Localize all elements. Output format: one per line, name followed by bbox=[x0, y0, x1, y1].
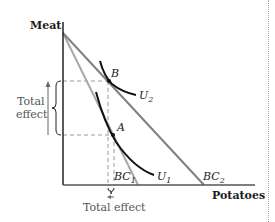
point-a-label: A bbox=[116, 121, 125, 134]
arrowhead-left-icon bbox=[107, 195, 111, 199]
svg-text:Total effect: Total effect bbox=[83, 201, 146, 214]
svg-text:Total: Total bbox=[17, 95, 45, 108]
y-axis-label: Meat bbox=[30, 19, 62, 32]
svg-text:U2: U2 bbox=[139, 89, 153, 104]
point-b-label: B bbox=[110, 67, 119, 80]
brace-left-icon bbox=[52, 81, 61, 135]
x-axis-label: Potatoes bbox=[212, 189, 265, 202]
svg-text:U1: U1 bbox=[157, 170, 171, 185]
arrowhead-up-icon bbox=[46, 81, 51, 87]
guide-lines bbox=[63, 81, 114, 185]
label-bc2: BC2 bbox=[202, 170, 225, 185]
brace-down-icon bbox=[108, 188, 114, 194]
indifference-curve-u1 bbox=[96, 92, 154, 175]
svg-text:effect: effect bbox=[16, 108, 48, 121]
label-u1: U1 bbox=[157, 170, 171, 185]
vertical-total-effect-annotation: Total effect bbox=[16, 81, 61, 135]
page-border bbox=[268, 0, 269, 222]
budget-constraint-diagram: Meat Potatoes B A U2 U1 BC1 BC2 Total ef… bbox=[0, 0, 275, 222]
point-a-marker bbox=[111, 133, 115, 137]
svg-text:BC2: BC2 bbox=[202, 170, 225, 185]
label-u2: U2 bbox=[139, 89, 153, 104]
horizontal-total-effect-annotation: Total effect bbox=[83, 188, 146, 214]
